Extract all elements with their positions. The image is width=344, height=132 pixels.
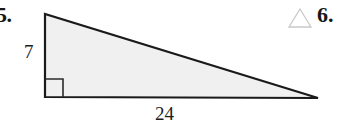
triangle-outline-icon [287, 7, 313, 29]
problem-number-6: 6. [317, 4, 334, 26]
triangle-shape [45, 14, 318, 98]
side-label-horizontal-leg: 24 [155, 104, 174, 123]
side-label-vertical-leg: 7 [24, 42, 34, 61]
worksheet-figure-panel: 5. 7 24 6. [0, 0, 344, 132]
